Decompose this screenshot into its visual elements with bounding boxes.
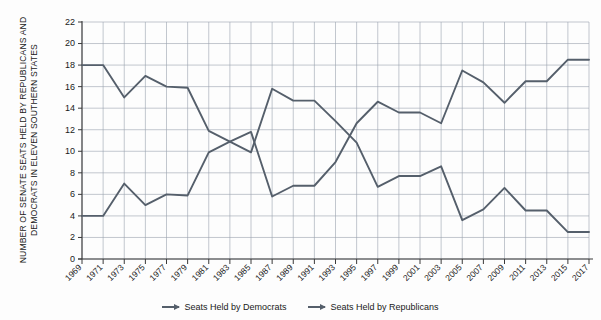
x-tick-label: 2013 xyxy=(528,262,549,283)
x-tick-label: 2005 xyxy=(443,262,464,283)
y-tick-label: 10 xyxy=(65,146,75,156)
y-tick-label: 0 xyxy=(70,254,75,264)
x-tick-label: 2017 xyxy=(570,262,591,283)
x-tick-label: 2007 xyxy=(464,262,485,283)
y-tick-label: 20 xyxy=(65,38,75,48)
y-tick-label: 22 xyxy=(65,17,75,27)
x-tick-label: 1979 xyxy=(169,262,190,283)
x-tick-label: 1971 xyxy=(84,262,105,283)
x-tick-label: 1991 xyxy=(295,262,316,283)
legend-marker-democrats-icon xyxy=(162,306,179,308)
x-tick-label: 1983 xyxy=(211,262,232,283)
x-tick-label: 1995 xyxy=(338,262,359,283)
x-tick-label: 2001 xyxy=(401,262,422,283)
legend-item-republicans[interactable]: Seats Held by Republicans xyxy=(308,302,438,312)
x-tick-label: 2011 xyxy=(507,262,527,282)
legend-marker-republicans-icon xyxy=(308,306,325,308)
y-tick-label: 4 xyxy=(70,211,75,221)
x-tick-label: 1993 xyxy=(316,262,337,283)
y-tick-label: 14 xyxy=(65,103,75,113)
x-tick-label: 1981 xyxy=(190,262,211,283)
y-tick-label: 8 xyxy=(70,168,75,178)
plot-area: 0246810121416182022196919711973197519771… xyxy=(0,0,601,300)
legend-label-democrats: Seats Held by Democrats xyxy=(184,302,286,312)
x-tick-label: 1973 xyxy=(105,262,126,283)
x-tick-label: 1989 xyxy=(274,262,295,283)
x-tick-label: 1987 xyxy=(253,262,274,283)
y-tick-label: 12 xyxy=(65,125,75,135)
x-tick-label: 1977 xyxy=(147,262,168,283)
legend-label-republicans: Seats Held by Republicans xyxy=(330,302,438,312)
line-chart: NUMBER OF SENATE SEATS HELD BY REPUBLICA… xyxy=(0,0,601,320)
legend-item-democrats[interactable]: Seats Held by Democrats xyxy=(162,302,286,312)
x-tick-label: 2015 xyxy=(549,262,570,283)
x-tick-label: 1997 xyxy=(359,262,380,283)
x-tick-label: 1969 xyxy=(63,262,84,283)
y-tick-label: 16 xyxy=(65,82,75,92)
x-tick-label: 2009 xyxy=(485,262,506,283)
x-tick-label: 1985 xyxy=(232,262,253,283)
y-tick-label: 2 xyxy=(70,232,75,242)
chart-legend: Seats Held by Democrats Seats Held by Re… xyxy=(0,302,601,312)
x-tick-label: 1975 xyxy=(126,262,147,283)
x-tick-label: 2003 xyxy=(422,262,443,283)
x-tick-label: 1999 xyxy=(380,262,401,283)
y-tick-label: 6 xyxy=(70,189,75,199)
y-tick-label: 18 xyxy=(65,60,75,70)
